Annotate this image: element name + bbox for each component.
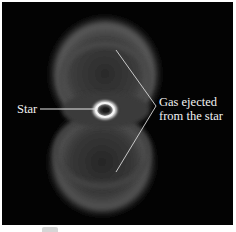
- gas-label: Gas ejected from the star: [159, 95, 223, 123]
- nebula-photo: Star Gas ejected from the star: [2, 2, 233, 225]
- gas-label-line-1: Gas ejected: [159, 95, 223, 109]
- star-label: Star: [17, 102, 37, 116]
- gas-label-line-2: from the star: [159, 109, 223, 123]
- caption-tab-marker: [42, 227, 58, 232]
